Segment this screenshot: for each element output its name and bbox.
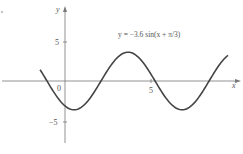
equation-label: y = −3.6 sin(x + π/3)	[118, 30, 181, 39]
chart: 5 x 0 y 5 −5 y = −3.6 sin(x + π/3)	[0, 0, 243, 154]
y-axis-label: y	[55, 5, 60, 14]
y-axis-arrow-icon	[63, 6, 67, 12]
origin-label: 0	[57, 84, 61, 93]
x-axis-label: x	[231, 81, 236, 90]
x-tick-label-5: 5	[149, 86, 153, 95]
y-tick-label-5: 5	[55, 38, 59, 47]
y-tick-label-neg5: −5	[49, 118, 58, 127]
x-axis-arrow-icon	[235, 79, 241, 83]
y-axis: y 5 −5	[49, 5, 67, 143]
stray-dot	[1, 11, 3, 13]
